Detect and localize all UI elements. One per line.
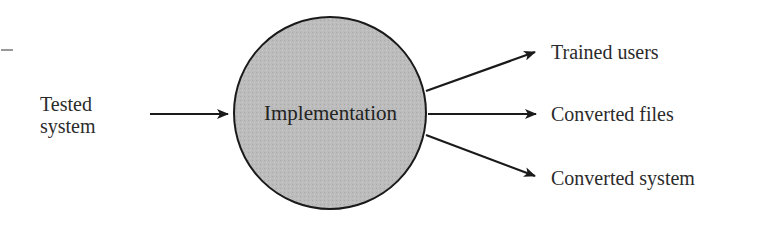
output-arrow-trained-users bbox=[426, 52, 535, 91]
input-label-tested-system: Tested system bbox=[40, 92, 96, 138]
output-label-trained-users: Trained users bbox=[551, 40, 659, 64]
input-label-line1: Tested bbox=[40, 92, 96, 116]
output-arrow-converted-system bbox=[426, 135, 535, 176]
process-label: Implementation bbox=[233, 101, 428, 126]
output-label-converted-files: Converted files bbox=[551, 102, 674, 126]
output-label-converted-system: Converted system bbox=[551, 166, 695, 190]
input-label-line2: system bbox=[40, 114, 96, 138]
